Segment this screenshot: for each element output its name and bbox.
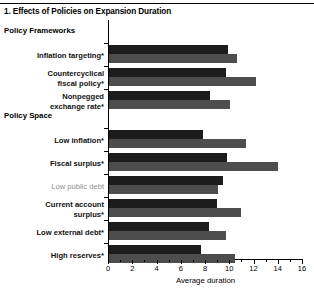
bar-dark bbox=[109, 199, 217, 208]
x-tick-label: 12 bbox=[249, 264, 257, 273]
bar-dark bbox=[109, 130, 203, 139]
category-label-line: Low external debt* bbox=[0, 228, 104, 237]
x-tick-label: 10 bbox=[225, 264, 233, 273]
bar-light bbox=[109, 185, 218, 194]
category-label-line: Countercyclical bbox=[0, 69, 104, 78]
bar-light bbox=[109, 231, 226, 240]
bar-light bbox=[109, 139, 246, 148]
x-minor-tick-mark bbox=[266, 260, 267, 262]
bar-light bbox=[109, 208, 241, 217]
x-axis-title: Average duration bbox=[108, 276, 303, 285]
x-tick-label: 4 bbox=[154, 264, 158, 273]
x-tick-label: 0 bbox=[106, 264, 110, 273]
category-label-line: Inflation targeting* bbox=[0, 51, 104, 60]
y-tick-mark bbox=[104, 128, 108, 129]
x-tick-label: 6 bbox=[179, 264, 183, 273]
chart-panel: 1. Effects of Policies on Expansion Dura… bbox=[0, 0, 314, 294]
bar-light bbox=[109, 77, 256, 86]
y-tick-mark bbox=[104, 66, 108, 67]
y-tick-mark bbox=[104, 220, 108, 221]
group-header-policy-space: Policy Space bbox=[4, 111, 52, 120]
bar-dark bbox=[109, 91, 210, 100]
category-label: Countercyclicalfiscal policy* bbox=[0, 69, 104, 87]
bar-light bbox=[109, 54, 237, 63]
category-label-line: exchange rate* bbox=[0, 102, 104, 111]
x-minor-tick-mark bbox=[290, 260, 291, 262]
category-label-line: Low public debt bbox=[0, 182, 104, 191]
y-tick-mark bbox=[104, 89, 108, 90]
category-label-line: Fiscal surplus* bbox=[0, 159, 104, 168]
category-label: Current accountsurplus* bbox=[0, 200, 104, 218]
x-tick-label: 14 bbox=[274, 264, 282, 273]
x-tick-label: 8 bbox=[203, 264, 207, 273]
x-minor-tick-mark bbox=[193, 260, 194, 262]
category-label: Nonpeggedexchange rate* bbox=[0, 92, 104, 110]
group-header-policy-frameworks: Policy Frameworks bbox=[4, 26, 75, 35]
bar-dark bbox=[109, 153, 227, 162]
x-tick-label: 2 bbox=[130, 264, 134, 273]
category-label: Low public debt bbox=[0, 182, 104, 191]
category-label: Low external debt* bbox=[0, 228, 104, 237]
page-title: 1. Effects of Policies on Expansion Dura… bbox=[4, 7, 171, 16]
y-tick-mark bbox=[104, 151, 108, 152]
title-rule bbox=[0, 3, 314, 4]
bar-dark bbox=[109, 222, 209, 231]
bar-light bbox=[109, 100, 230, 109]
bar-dark bbox=[109, 45, 228, 54]
x-minor-tick-mark bbox=[169, 260, 170, 262]
category-label: Low inflation* bbox=[0, 136, 104, 145]
x-minor-tick-mark bbox=[144, 260, 145, 262]
bar-dark bbox=[109, 176, 223, 185]
x-minor-tick-mark bbox=[120, 260, 121, 262]
bar-dark bbox=[109, 68, 226, 77]
category-label-line: Nonpegged bbox=[0, 92, 104, 101]
bar-light bbox=[109, 162, 278, 171]
category-label-line: Current account bbox=[0, 200, 104, 209]
category-label-line: Low inflation* bbox=[0, 136, 104, 145]
category-label: Fiscal surplus* bbox=[0, 159, 104, 168]
x-minor-tick-mark bbox=[217, 260, 218, 262]
x-tick-label: 16 bbox=[298, 264, 306, 273]
category-label: High reserves* bbox=[0, 251, 104, 260]
x-minor-tick-mark bbox=[241, 260, 242, 262]
y-tick-mark bbox=[104, 243, 108, 244]
category-label-line: surplus* bbox=[0, 210, 104, 219]
y-tick-mark bbox=[104, 174, 108, 175]
category-label: Inflation targeting* bbox=[0, 51, 104, 60]
y-tick-mark bbox=[104, 197, 108, 198]
category-label-line: fiscal policy* bbox=[0, 79, 104, 88]
bar-dark bbox=[109, 245, 201, 254]
category-label-line: High reserves* bbox=[0, 251, 104, 260]
y-tick-mark bbox=[104, 43, 108, 44]
